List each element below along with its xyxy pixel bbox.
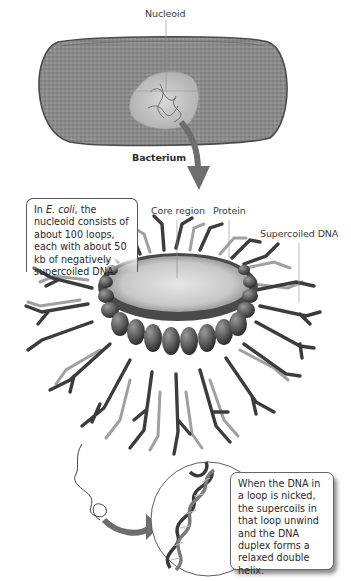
protein-label: Protein: [213, 205, 246, 216]
ecoli-callout-prefix: In: [34, 204, 46, 215]
core-region-label: Core region: [151, 205, 205, 216]
bacterium-label: Bacterium: [132, 152, 186, 163]
ecoli-species-name: E. coli: [46, 204, 75, 215]
nicked-dna-callout: When the DNA in a loop is nicked, the su…: [230, 472, 334, 570]
nucleoid-label: Nucleoid: [145, 8, 186, 19]
ecoli-callout: In E. coli, the nucleoid consists of abo…: [26, 198, 138, 272]
supercoiled-dna-label: Supercoiled DNA: [260, 228, 338, 239]
nicked-dna-callout-text: When the DNA in a loop is nicked, the su…: [238, 478, 327, 577]
nicked-loop: [75, 444, 107, 520]
bacterium-cell: [39, 20, 287, 145]
